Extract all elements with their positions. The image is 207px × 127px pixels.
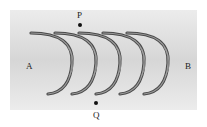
wavefront-diagram: A B P Q [0, 0, 207, 127]
label-a: A [26, 61, 33, 71]
point-q-dot [94, 101, 98, 105]
label-q: Q [93, 110, 100, 120]
point-p-dot [78, 23, 82, 27]
label-b: B [185, 61, 191, 71]
label-p: P [77, 10, 82, 20]
